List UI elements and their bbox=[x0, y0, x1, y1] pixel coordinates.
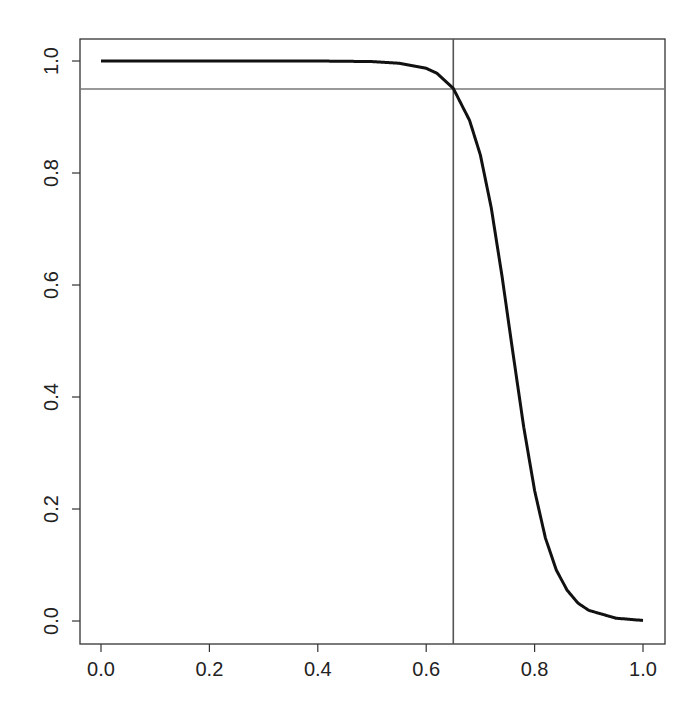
y-tick-label: 1.0 bbox=[40, 47, 62, 75]
reference-lines bbox=[80, 39, 665, 644]
x-axis: 0.00.20.40.60.81.0 bbox=[87, 644, 657, 680]
y-tick-label: 0.0 bbox=[40, 607, 62, 635]
x-tick-label: 1.0 bbox=[629, 658, 657, 680]
y-tick-label: 0.4 bbox=[40, 383, 62, 411]
y-axis: 0.00.20.40.60.81.0 bbox=[40, 47, 80, 635]
data-curve bbox=[101, 61, 643, 620]
plot-frame bbox=[80, 39, 665, 644]
x-tick-label: 0.0 bbox=[87, 658, 115, 680]
x-tick-label: 0.8 bbox=[521, 658, 549, 680]
y-tick-label: 0.6 bbox=[40, 271, 62, 299]
y-tick-label: 0.8 bbox=[40, 159, 62, 187]
y-tick-label: 0.2 bbox=[40, 495, 62, 523]
x-tick-label: 0.2 bbox=[195, 658, 223, 680]
chart: 0.00.20.40.60.81.0 0.00.20.40.60.81.0 bbox=[0, 0, 700, 718]
x-tick-label: 0.4 bbox=[304, 658, 332, 680]
x-tick-label: 0.6 bbox=[412, 658, 440, 680]
